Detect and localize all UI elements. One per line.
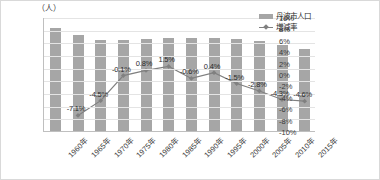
x-axis-tick-label: 1965年 bbox=[88, 135, 113, 160]
y-axis-unit-label: （人） bbox=[37, 2, 60, 13]
secondary-y-axis-tick-label: -8% bbox=[279, 116, 313, 125]
legend-bar-swatch-icon bbox=[259, 14, 273, 19]
legend-label-population: 丹波市人口 bbox=[276, 11, 311, 22]
secondary-y-axis-tick-label: 6% bbox=[279, 36, 313, 45]
data-label: -4.6% bbox=[293, 90, 312, 99]
x-axis-tick-label: 1985年 bbox=[179, 135, 204, 160]
secondary-y-axis-tick-label: 0% bbox=[279, 71, 313, 80]
data-label: -1.5% bbox=[225, 73, 244, 82]
x-axis-tick-label: 2015年 bbox=[315, 135, 340, 160]
data-label: 0.8% bbox=[136, 59, 152, 68]
secondary-y-axis-tick-label: 2% bbox=[279, 59, 313, 68]
legend-item-population: 丹波市人口 bbox=[259, 11, 343, 22]
secondary-y-axis-tick-label: -6% bbox=[279, 105, 313, 114]
x-axis-tick-label: 1960年 bbox=[65, 135, 90, 160]
data-label: -4.5% bbox=[89, 90, 108, 99]
data-label: 0.4% bbox=[204, 62, 220, 71]
x-axis-tick-label: 1970年 bbox=[111, 135, 136, 160]
data-label: -4.3% bbox=[271, 89, 290, 98]
data-label: 1.5% bbox=[159, 55, 175, 64]
legend: 丹波市人口 増減率 bbox=[259, 11, 343, 33]
x-axis-tick-label: 2005年 bbox=[269, 135, 294, 160]
data-label: -0.6% bbox=[180, 67, 199, 76]
data-label: -7.1% bbox=[67, 104, 86, 113]
x-axis-tick-label: 1980年 bbox=[156, 135, 181, 160]
population-change-chart: （人） 010,00020,00030,00040,00050,00060,00… bbox=[0, 0, 380, 180]
secondary-y-axis-tick-label: 4% bbox=[279, 48, 313, 57]
x-axis-tick-label: 1990年 bbox=[201, 135, 226, 160]
x-axis-tick-label: 1995年 bbox=[224, 135, 249, 160]
data-label: -2.8% bbox=[248, 80, 267, 89]
legend-label-change-rate: 増減率 bbox=[276, 22, 297, 33]
legend-item-change-rate: 増減率 bbox=[259, 22, 343, 33]
x-axis-tick-label: 2010年 bbox=[292, 135, 317, 160]
x-axis-tick-label: 2000年 bbox=[247, 135, 272, 160]
legend-line-swatch-icon bbox=[259, 25, 273, 30]
data-label: -0.1% bbox=[112, 65, 131, 74]
x-axis-tick-label: 1975年 bbox=[133, 135, 158, 160]
